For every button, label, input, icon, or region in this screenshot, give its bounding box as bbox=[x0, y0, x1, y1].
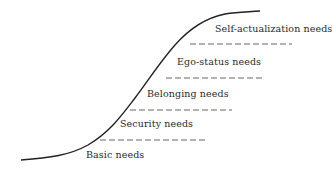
label-ego-status: Ego-status needs bbox=[177, 56, 261, 67]
label-basic: Basic needs bbox=[86, 149, 144, 160]
label-security: Security needs bbox=[120, 118, 193, 129]
label-belonging: Belonging needs bbox=[147, 88, 229, 99]
label-self-actualization: Self-actualization needs bbox=[215, 23, 332, 34]
